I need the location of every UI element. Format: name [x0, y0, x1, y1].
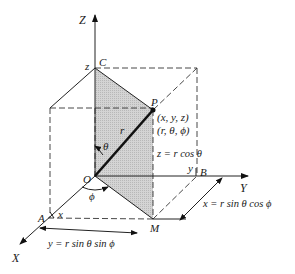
label-y-at-b: y — [187, 162, 193, 174]
label-c: C — [99, 56, 107, 68]
label-m: M — [149, 222, 160, 234]
phi-arc — [82, 187, 108, 190]
diagram-canvas: Z Y X C z P O A x B y M r θ ϕ (x, y, z) … — [0, 0, 295, 274]
x-tick-a — [50, 212, 54, 218]
label-b: B — [200, 166, 207, 178]
label-x-at-a: x — [57, 208, 63, 220]
label-spherical-coords: (r, θ, ϕ) — [157, 124, 190, 137]
label-p: P — [150, 96, 158, 108]
y-axis-label: Y — [240, 181, 248, 195]
label-theta: θ — [103, 140, 109, 152]
equation-z: z = r cos θ — [156, 148, 202, 159]
label-cartesian-coords: (x, y, z) — [157, 111, 189, 124]
label-z-at-c: z — [84, 60, 90, 72]
equation-y: y = r sin θ sin ϕ — [47, 238, 115, 249]
label-r: r — [120, 124, 125, 136]
label-phi: ϕ — [89, 190, 95, 202]
y-dimension-arrow — [40, 228, 137, 233]
x-axis-label: X — [11, 251, 20, 265]
z-axis-label: Z — [79, 13, 86, 27]
point-p-dot — [151, 108, 156, 113]
equation-x: x = r sin θ cos ϕ — [202, 198, 272, 209]
label-o: O — [83, 173, 91, 185]
label-a: A — [37, 212, 45, 224]
spherical-coordinates-diagram: Z Y X C z P O A x B y M r θ ϕ (x, y, z) … — [0, 0, 295, 274]
